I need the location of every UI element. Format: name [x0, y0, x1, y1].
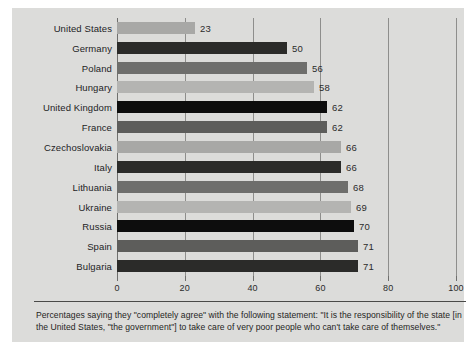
- tick-mark-0: [117, 276, 118, 281]
- bar: [117, 62, 307, 74]
- bar: [117, 201, 351, 213]
- bar: [117, 141, 341, 153]
- x-tick-label: 80: [383, 283, 393, 293]
- x-tick-label: 60: [315, 283, 325, 293]
- gridline-80: [388, 18, 389, 276]
- bar: [117, 220, 354, 232]
- bar-value-label: 66: [346, 162, 357, 173]
- category-label: United Kingdom: [12, 102, 112, 113]
- bar: [117, 81, 314, 93]
- tick-mark-40: [253, 276, 254, 281]
- tick-mark-100: [456, 276, 457, 281]
- tick-mark-20: [185, 276, 186, 281]
- plot-area: 02040608010023505658626266666869707171: [117, 18, 456, 276]
- category-label: Russia: [12, 221, 112, 232]
- bar-value-label: 50: [292, 43, 303, 54]
- gridline-100: [456, 18, 457, 276]
- chart-figure: United StatesGermanyPolandHungaryUnited …: [0, 0, 476, 350]
- caption-divider: [34, 301, 466, 302]
- bar: [117, 240, 358, 252]
- tick-mark-60: [320, 276, 321, 281]
- bar-value-label: 71: [363, 261, 374, 272]
- category-label: Germany: [12, 43, 112, 54]
- category-label: Bulgaria: [12, 261, 112, 272]
- bar-value-label: 68: [353, 182, 364, 193]
- category-label: Hungary: [12, 82, 112, 93]
- chart-panel: United StatesGermanyPolandHungaryUnited …: [12, 8, 464, 342]
- bar-value-label: 62: [332, 122, 343, 133]
- x-tick-label: 100: [448, 283, 464, 293]
- x-tick-label: 40: [247, 283, 257, 293]
- chart-caption: Percentages saying they "completely agre…: [36, 310, 464, 333]
- bar-value-label: 62: [332, 102, 343, 113]
- category-label: United States: [12, 23, 112, 34]
- category-label: Poland: [12, 63, 112, 74]
- category-label: Spain: [12, 241, 112, 252]
- tick-mark-80: [388, 276, 389, 281]
- bar: [117, 121, 327, 133]
- x-tick-label: 20: [180, 283, 190, 293]
- category-label: Ukraine: [12, 202, 112, 213]
- bar-value-label: 66: [346, 142, 357, 153]
- bar-value-label: 58: [319, 82, 330, 93]
- bar-value-label: 69: [356, 202, 367, 213]
- bar: [117, 181, 348, 193]
- x-tick-label: 0: [114, 283, 119, 293]
- category-label: France: [12, 122, 112, 133]
- bar-value-label: 71: [363, 241, 374, 252]
- bar-value-label: 70: [359, 221, 370, 232]
- bar-value-label: 23: [200, 23, 211, 34]
- bar: [117, 22, 195, 34]
- bar: [117, 260, 358, 272]
- bar: [117, 161, 341, 173]
- category-label: Czechoslovakia: [12, 142, 112, 153]
- bar: [117, 42, 287, 54]
- category-label: Lithuania: [12, 182, 112, 193]
- bar: [117, 101, 327, 113]
- category-label: Italy: [12, 162, 112, 173]
- category-axis: United StatesGermanyPolandHungaryUnited …: [12, 18, 112, 276]
- bar-value-label: 56: [312, 63, 323, 74]
